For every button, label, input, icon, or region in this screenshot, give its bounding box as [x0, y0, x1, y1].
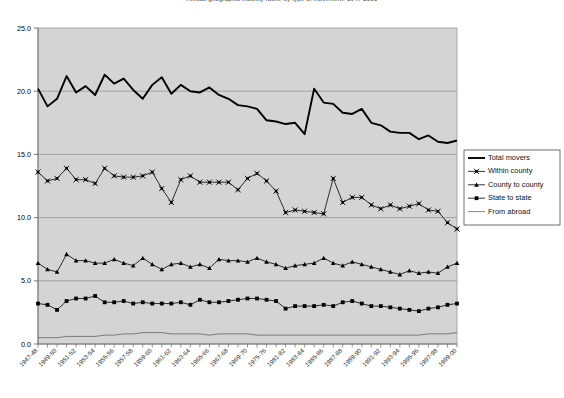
x-tick-label: 1951-52	[56, 346, 77, 367]
data-point-marker	[84, 178, 87, 181]
legend-item-label: Total movers	[488, 153, 530, 162]
data-point-marker	[303, 304, 307, 308]
legend: Total moversWithin countyCounty to count…	[464, 150, 560, 225]
data-point-marker	[341, 201, 344, 204]
data-point-marker	[332, 177, 335, 180]
data-point-marker	[93, 294, 97, 298]
data-point-marker	[389, 204, 392, 207]
data-point-marker	[65, 299, 69, 303]
x-tick-label: 1985-86	[303, 346, 324, 367]
legend-item-label: State to state	[488, 193, 532, 202]
data-point-marker	[103, 300, 107, 304]
data-point-marker	[103, 167, 106, 170]
data-point-marker	[427, 209, 430, 212]
data-point-marker	[189, 175, 192, 178]
data-point-marker	[150, 302, 154, 306]
data-point-marker	[341, 300, 345, 304]
data-point-marker	[475, 170, 478, 173]
data-point-marker	[75, 178, 78, 181]
data-point-marker	[122, 176, 125, 179]
data-point-marker	[418, 202, 421, 205]
x-tick-label: 1997-98	[418, 346, 439, 367]
data-point-marker	[255, 297, 259, 301]
x-tick-label: 1963-64	[170, 346, 191, 367]
data-point-marker	[160, 187, 163, 190]
data-point-marker	[217, 300, 221, 304]
data-point-marker	[388, 305, 392, 309]
data-point-marker	[160, 302, 164, 306]
data-point-marker	[236, 298, 240, 302]
data-point-marker	[94, 182, 97, 185]
data-point-marker	[170, 201, 173, 204]
data-point-marker	[198, 298, 202, 302]
data-point-marker	[36, 302, 40, 306]
x-tick-label: 1989-90	[341, 346, 362, 367]
data-point-marker	[350, 299, 354, 303]
data-point-marker	[274, 299, 278, 303]
y-tick-label: 0.0	[21, 340, 31, 349]
x-tick-label: 1999-00	[437, 346, 458, 367]
x-tick-label: 1957-58	[113, 346, 134, 367]
x-tick-label: 1955-56	[94, 346, 115, 367]
data-point-marker	[112, 300, 116, 304]
data-point-marker	[55, 308, 59, 312]
legend-item-label: From abroad	[488, 207, 530, 216]
data-point-marker	[475, 196, 479, 200]
data-point-marker	[237, 188, 240, 191]
x-tick-label: 1967-68	[208, 346, 229, 367]
data-point-marker	[313, 211, 316, 214]
data-point-marker	[132, 176, 135, 179]
data-point-marker	[380, 207, 383, 210]
data-point-marker	[227, 181, 230, 184]
y-tick-label: 20.0	[17, 87, 31, 96]
data-point-marker	[208, 181, 211, 184]
data-point-marker	[218, 181, 221, 184]
data-point-marker	[351, 196, 354, 199]
data-point-marker	[312, 304, 316, 308]
legend-item-label: Within county	[488, 166, 533, 175]
y-tick-label: 25.0	[17, 24, 31, 33]
x-tick-label: 1983-84	[284, 346, 305, 367]
x-tick-label: 1995-96	[399, 346, 420, 367]
x-tick-label: 1981-82	[265, 346, 286, 367]
data-point-marker	[246, 177, 249, 180]
data-point-marker	[37, 171, 40, 174]
y-tick-label: 15.0	[17, 150, 31, 159]
data-point-marker	[188, 303, 192, 307]
data-point-marker	[322, 213, 325, 216]
data-point-marker	[141, 300, 145, 304]
data-point-marker	[65, 167, 68, 170]
x-tick-label: 1953-54	[75, 346, 96, 367]
data-point-marker	[360, 196, 363, 199]
data-point-marker	[399, 207, 402, 210]
data-point-marker	[122, 299, 126, 303]
data-point-marker	[370, 204, 373, 207]
data-point-marker	[436, 305, 440, 309]
y-tick-label: 5.0	[21, 276, 31, 285]
y-tick-label: 10.0	[17, 213, 31, 222]
mobility-line-chart: 0.05.010.015.020.025.01947-481949-501951…	[0, 0, 564, 398]
x-tick-label: 1993-94	[380, 346, 401, 367]
data-point-marker	[265, 180, 268, 183]
data-point-marker	[407, 308, 411, 312]
data-point-marker	[284, 211, 287, 214]
data-point-marker	[246, 297, 250, 301]
data-point-marker	[227, 299, 231, 303]
legend-item-label: County to county	[488, 180, 544, 189]
data-point-marker	[113, 175, 116, 178]
data-point-marker	[446, 221, 449, 224]
data-point-marker	[446, 303, 450, 307]
x-tick-label: 1947-48	[18, 346, 39, 367]
data-point-marker	[455, 302, 459, 306]
data-point-marker	[208, 300, 212, 304]
x-tick-label: 1969-70	[227, 346, 248, 367]
data-point-marker	[46, 303, 50, 307]
data-point-marker	[56, 177, 59, 180]
data-point-marker	[275, 190, 278, 193]
data-point-marker	[256, 172, 259, 175]
data-point-marker	[74, 297, 78, 301]
data-point-marker	[294, 209, 297, 212]
data-point-marker	[437, 210, 440, 213]
data-point-marker	[169, 302, 173, 306]
data-point-marker	[303, 210, 306, 213]
